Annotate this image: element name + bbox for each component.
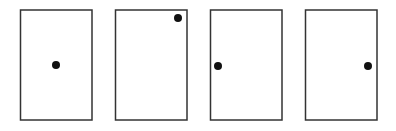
panel-2 [116,10,188,120]
panels-diagram [0,0,396,131]
panel-2-frame [116,10,188,120]
panel-1-dot [52,61,60,69]
panel-1 [21,10,93,120]
panel-4 [306,10,378,120]
panel-3 [211,10,283,120]
panel-4-dot [364,62,372,70]
panel-2-dot [174,14,182,22]
panel-3-dot [214,62,222,70]
